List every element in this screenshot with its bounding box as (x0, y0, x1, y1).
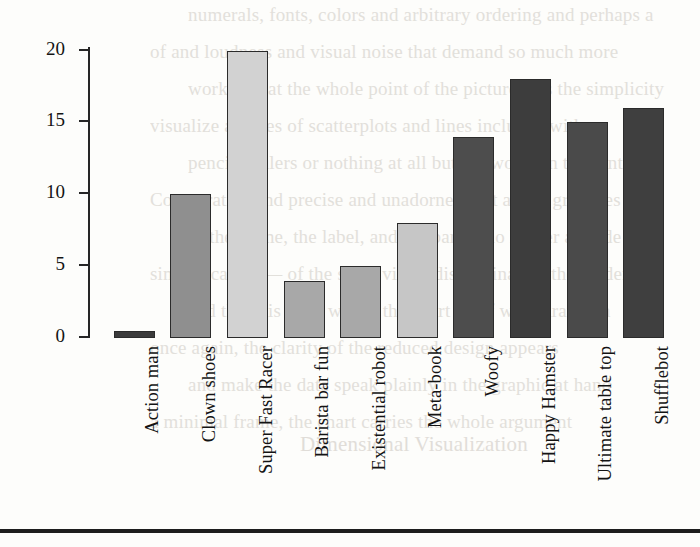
bar-chart-figure: Units sold (in thousands) 05101520 Actio… (0, 0, 700, 547)
bar (227, 51, 268, 338)
x-axis-tick-label: Ultimate table top (595, 346, 616, 481)
y-axis-tick: 10 (79, 192, 90, 194)
y-axis-tick-label: 20 (46, 37, 65, 59)
bar-series (90, 42, 674, 338)
bar (340, 266, 381, 338)
x-axis-tick-label: Action man (142, 346, 163, 434)
bar (284, 281, 325, 338)
y-axis-tick-label: 10 (46, 181, 65, 203)
y-axis-tick: 15 (79, 120, 90, 122)
bar (567, 122, 608, 338)
y-axis-tick-label: 15 (46, 109, 65, 131)
bar (170, 194, 211, 338)
y-axis-tick-label: 5 (56, 253, 66, 275)
x-axis-tick-label: Woofy (482, 346, 503, 396)
bar (623, 108, 664, 338)
plot-area: 05101520 (88, 40, 674, 340)
bar (453, 137, 494, 338)
y-axis-tick-label: 0 (56, 325, 66, 347)
x-axis-tick-label: Meta-book (425, 346, 446, 428)
x-axis-tick-label: Clown shoes (199, 346, 220, 442)
x-axis-tick-label: Shufflebot (652, 346, 673, 425)
y-axis-tick: 5 (79, 264, 90, 266)
y-axis-tick: 0 (79, 336, 90, 338)
x-axis-tick-label: Happy Hamster (539, 346, 560, 464)
bar (114, 331, 155, 338)
footer-rule (0, 529, 700, 533)
y-axis-tick: 20 (79, 49, 90, 51)
x-axis-tick-labels: Action manClown shoesSuper Fast RacerBar… (90, 346, 676, 536)
x-axis-tick-label: Super Fast Racer (256, 346, 277, 474)
x-axis-tick-label: Existential robot (369, 346, 390, 471)
bar (397, 223, 438, 338)
bar (510, 79, 551, 338)
x-axis-tick-label: Barista bar fun (312, 346, 333, 457)
